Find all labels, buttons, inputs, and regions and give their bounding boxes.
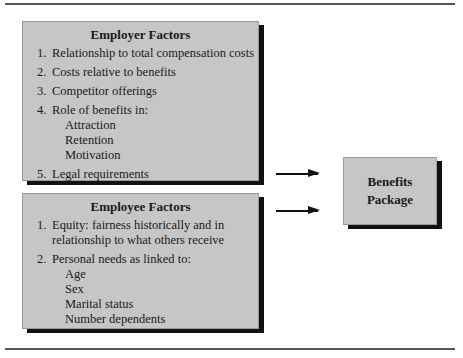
benefits-package-line2: Package [344, 191, 436, 209]
employee-subitem-number-dependents: Number dependents [65, 312, 165, 327]
employee-factors-box: Employee Factors 1. Equity: fairness his… [22, 193, 259, 329]
arrow-employee-to-benefits-icon [276, 210, 318, 212]
employer-item-4: Role of benefits in: [52, 103, 148, 118]
employee-item-1-num: 1. [37, 218, 46, 233]
benefits-package-box: Benefits Package [343, 157, 437, 225]
employer-subitem-retention: Retention [65, 133, 114, 148]
employee-subitem-age: Age [65, 267, 86, 282]
employee-item-1-cont: relationship to what others receive [52, 233, 224, 248]
employer-subitem-motivation: Motivation [65, 148, 121, 163]
employee-subitem-marital-status: Marital status [65, 297, 133, 312]
employee-factors-title: Employee Factors [23, 199, 258, 215]
employer-item-3: Competitor offerings [52, 84, 157, 99]
employer-factors-box: Employer Factors 1. Relationship to tota… [22, 21, 259, 181]
benefits-package-line1: Benefits [344, 173, 436, 191]
employer-item-5: Legal requirements [52, 167, 149, 182]
employee-item-2: Personal needs as linked to: [52, 252, 191, 267]
arrow-employer-to-benefits-icon [276, 173, 318, 175]
bottom-rule [5, 348, 455, 350]
top-rule [5, 3, 455, 5]
employer-item-2: Costs relative to benefits [52, 65, 176, 80]
employer-item-5-num: 5. [37, 167, 46, 182]
employer-item-1: Relationship to total compensation costs [52, 46, 254, 61]
employee-item-1: Equity: fairness historically and in [52, 218, 224, 233]
employer-item-2-num: 2. [37, 65, 46, 80]
employer-factors-title: Employer Factors [23, 27, 258, 43]
employer-subitem-attraction: Attraction [65, 118, 116, 133]
employer-item-3-num: 3. [37, 84, 46, 99]
employee-subitem-sex: Sex [65, 282, 84, 297]
employer-item-4-num: 4. [37, 103, 46, 118]
employer-item-1-num: 1. [37, 46, 46, 61]
employee-item-2-num: 2. [37, 252, 46, 267]
